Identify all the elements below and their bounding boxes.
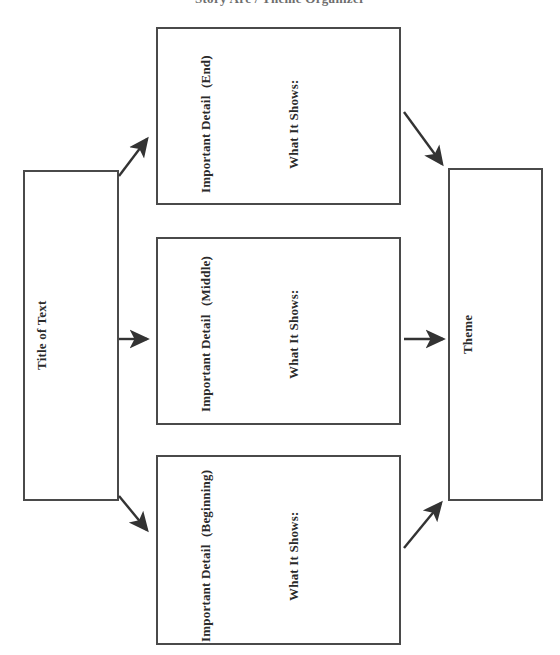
detail-stage-text-end: (End) [199,55,214,88]
arrow-title-to-end [119,139,147,176]
detail-heading-text-middle: Important Detail [199,314,214,411]
arrow-end-to-theme [404,112,442,164]
detail-heading-text-beginning: Important Detail [199,545,214,642]
label-detail-heading-end: Important Detail (End) [172,50,214,198]
arrow-title-to-beginning [119,496,147,530]
clipped-page-heading: Story Arc / Theme Organizer [0,0,560,7]
label-detail-heading-beginning: Important Detail (Beginning) [172,475,214,637]
detail-heading-text-end: Important Detail [199,96,214,193]
detail-stage-text-beginning: (Beginning) [199,470,214,537]
label-title-of-text: Title of Text [32,170,52,501]
label-what-it-shows-end: What It Shows: [282,50,302,198]
label-what-it-shows-beginning: What It Shows: [282,475,302,637]
arrow-beginning-to-theme [404,503,441,548]
label-theme: Theme [458,168,478,501]
diagram-canvas: Story Arc / Theme Organizer Title of Tex… [0,0,560,655]
label-detail-heading-middle: Important Detail (Middle) [172,255,214,413]
detail-stage-text-middle: (Middle) [199,256,214,306]
label-what-it-shows-middle: What It Shows: [282,255,302,413]
